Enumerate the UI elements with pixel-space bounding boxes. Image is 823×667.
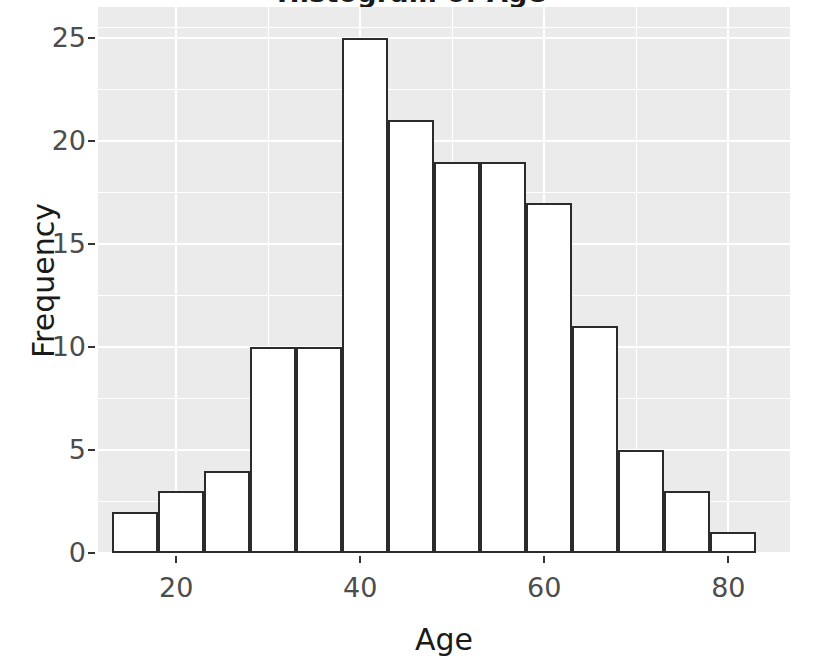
x-tick-label: 80 bbox=[688, 574, 768, 601]
x-tick-mark bbox=[175, 556, 177, 563]
x-axis-tick-labels: 20406080 bbox=[98, 566, 790, 602]
x-tick-label: 60 bbox=[504, 574, 584, 601]
histogram-bar bbox=[342, 38, 388, 553]
x-axis-title: Age bbox=[98, 622, 790, 657]
histogram-bar bbox=[112, 512, 158, 553]
gridline-major-horizontal bbox=[98, 37, 790, 39]
y-tick-label: 5 bbox=[69, 436, 86, 463]
gridline-minor-horizontal bbox=[98, 27, 790, 28]
y-tick-mark bbox=[88, 140, 95, 142]
x-tick-mark bbox=[359, 556, 361, 563]
histogram-bar bbox=[572, 326, 618, 553]
histogram-bar bbox=[296, 347, 342, 553]
histogram-bar bbox=[664, 491, 710, 553]
y-tick-mark bbox=[88, 346, 95, 348]
histogram-bar bbox=[434, 162, 480, 553]
plot-panel bbox=[98, 7, 790, 553]
histogram-bar bbox=[710, 532, 756, 553]
gridline-minor-horizontal bbox=[98, 89, 790, 90]
y-tick-label: 0 bbox=[69, 539, 86, 566]
histogram-bar bbox=[618, 450, 664, 553]
histogram-bar bbox=[204, 471, 250, 553]
y-tick-mark bbox=[88, 243, 95, 245]
chart-title-text: Histogram of Age bbox=[0, 0, 823, 7]
histogram-bar bbox=[250, 347, 296, 553]
x-tick-mark bbox=[543, 556, 545, 563]
gridline-major-vertical bbox=[175, 7, 177, 553]
histogram-bar bbox=[480, 162, 526, 553]
y-tick-mark bbox=[88, 37, 95, 39]
gridline-major-vertical bbox=[727, 7, 729, 553]
gridline-major-horizontal bbox=[98, 140, 790, 142]
x-tick-label: 40 bbox=[320, 574, 400, 601]
y-tick-label: 25 bbox=[52, 24, 86, 51]
histogram-bar bbox=[158, 491, 204, 553]
chart-title-clipped: Histogram of Age bbox=[0, 0, 823, 7]
x-tick-mark bbox=[727, 556, 729, 563]
y-tick-mark bbox=[88, 449, 95, 451]
histogram-bar bbox=[526, 203, 572, 553]
y-axis-title: Frequency bbox=[26, 131, 61, 431]
x-tick-label: 20 bbox=[136, 574, 216, 601]
histogram-bar bbox=[388, 120, 434, 553]
y-tick-mark bbox=[88, 552, 95, 554]
histogram-figure: Histogram of Age 0510152025 20406080 Age… bbox=[0, 0, 823, 667]
